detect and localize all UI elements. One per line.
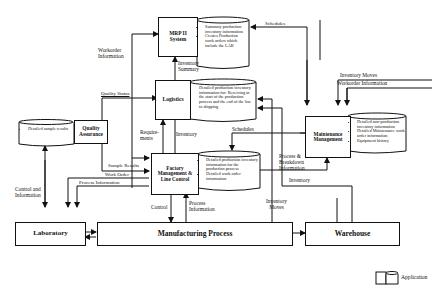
logistics-data-item: Detailed production inventory informatio…: [199, 86, 255, 110]
logistics-box: Logistics: [155, 80, 191, 120]
manufacturing-process-box: Manufacturing Process: [97, 222, 293, 246]
quality-assurance-box: Quality Assurance: [74, 120, 108, 144]
quality-status-label: Quality Status: [101, 91, 129, 97]
qa-label-2: Assurance: [79, 132, 103, 138]
inventory-moves-low-label: Inventory Moves: [266, 199, 287, 211]
inventory-summary-label: Inventory Summary: [178, 61, 199, 73]
logistics-data-store: Detailed production inventory informatio…: [193, 86, 255, 110]
manufacturing-label: Manufacturing Process: [158, 230, 233, 238]
factory-data-item: Detailed production inventory informatio…: [206, 158, 258, 172]
mrp-data-store: Summary production inventory information…: [199, 25, 247, 49]
label-line: Information: [98, 54, 124, 60]
maintenance-data-item: Equipment history: [357, 139, 407, 144]
inventory-moves-right-label: Inventory Moves: [340, 73, 377, 79]
application-legend-icon: [376, 271, 398, 285]
sample-results-label: Sample Results: [108, 163, 139, 169]
schedules-top-label: Schedules: [265, 21, 285, 27]
laboratory-label: Laboratory: [33, 230, 68, 237]
inventory-low-label: Inventory: [289, 178, 310, 184]
schedules-mid-label: Schedules: [232, 127, 254, 133]
work-order-label: Work Order: [105, 172, 129, 178]
label-line: Summary: [178, 67, 199, 73]
quality-data-store: Detailed sample results: [22, 127, 72, 132]
factory-data-store: Detailed production inventory informatio…: [200, 158, 258, 182]
mrp-system-box: MRP II System: [158, 17, 198, 57]
label-line: Information: [279, 166, 305, 172]
process-info-up-label: Process Information: [189, 201, 215, 213]
control-label: Control: [151, 205, 167, 211]
logistics-label: Logistics: [162, 97, 183, 103]
label-line: Information: [189, 207, 215, 213]
laboratory-box: Laboratory: [15, 222, 86, 246]
label-line: Moves: [266, 205, 287, 211]
maintenance-management-box: Maintenance Management: [305, 116, 351, 158]
process-information-label: Process Information: [79, 180, 119, 186]
process-breakdown-label: Process & Breakdown Information: [279, 154, 305, 172]
warehouse-label: Warehouse: [335, 230, 371, 238]
factory-data-item: Detailed work order information: [206, 172, 258, 181]
mrp-data-item: Creates Production work orders which inc…: [205, 34, 247, 48]
control-and-info-label: Control and Information: [15, 187, 41, 199]
quality-data-item: Detailed sample results: [28, 127, 72, 132]
maintenance-label-2: Management: [313, 137, 342, 142]
legend-application-label: Application: [401, 274, 427, 280]
requirements-label: Require- ments: [140, 130, 159, 142]
factory-label-3: Line Control: [161, 177, 190, 182]
warehouse-box: Warehouse: [305, 222, 400, 246]
workorder-info-label: Workorder Information: [98, 48, 124, 60]
label-line: Information: [15, 193, 41, 199]
factory-management-box: Factory Management & Line Control: [151, 153, 199, 195]
label-line: ments: [140, 136, 159, 142]
workorder-info-right-label: Workorder Information: [337, 81, 387, 87]
inventory-mid-label: Inventory: [176, 132, 197, 138]
mrp-label-2: System: [170, 37, 186, 43]
maintenance-data-store: Detailed non-production inventory inform…: [351, 120, 407, 144]
